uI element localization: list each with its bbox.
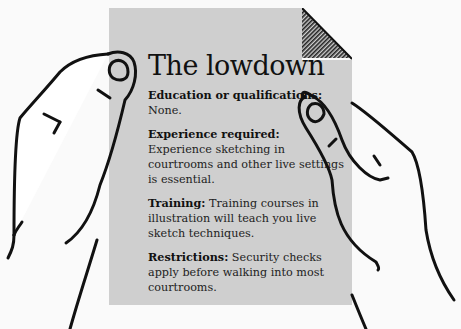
hands-illustration	[0, 0, 461, 329]
left-hand-icon	[8, 52, 136, 329]
right-hand-icon	[299, 92, 454, 329]
